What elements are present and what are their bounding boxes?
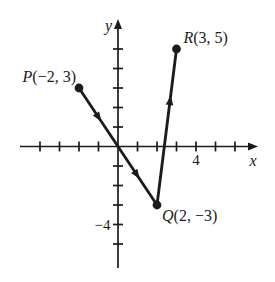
point-R-label-coords: (3, 5) [193,29,228,47]
point-Q-label-coords: (2, −3) [174,207,218,225]
y-tick-label: −4 [95,217,111,233]
segment-QR [157,49,177,205]
point-R-label-letter: R [183,29,194,46]
figure: xy4−4P(−2, 3)R(3, 5)Q(2, −3) [0,0,275,282]
point-R-label: R(3, 5) [183,29,228,47]
point-P-label-coords: (−2, 3) [32,68,76,86]
point-P-label: P(−2, 3) [22,68,76,86]
point-R-dot [172,45,181,54]
point-Q-label: Q(2, −3) [162,207,217,225]
x-axis-label: x [248,152,256,169]
coordinate-plane: xy4−4P(−2, 3)R(3, 5)Q(2, −3) [0,0,275,282]
point-Q-dot [153,201,162,210]
point-P-label-letter: P [22,68,33,85]
x-axis-arrowhead [248,143,258,151]
point-Q-label-letter: Q [162,207,174,224]
y-axis-arrowhead [114,19,122,29]
x-tick-label: 4 [192,152,200,168]
y-axis-label: y [103,17,113,35]
